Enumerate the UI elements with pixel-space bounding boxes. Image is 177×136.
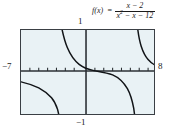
formula-denominator-rest: − x − 12 xyxy=(123,11,153,20)
formula-equals-sign: = xyxy=(107,7,112,15)
x-axis-max-label: 8 xyxy=(158,62,163,71)
formula-fraction: x − 2 x2 − x − 12 xyxy=(115,2,156,21)
graph-plot-area xyxy=(20,29,155,115)
x-axis-min-label: −7 xyxy=(2,62,12,71)
formula-denominator: x2 − x − 12 xyxy=(115,12,156,21)
formula-numerator: x − 2 xyxy=(124,2,145,11)
graph-svg xyxy=(21,30,154,114)
curve-branch-middle xyxy=(62,30,134,114)
function-curve xyxy=(21,30,154,114)
formula-function-name: f(x) xyxy=(92,7,103,15)
function-formula: f(x) = x − 2 x2 − x − 12 xyxy=(92,2,155,21)
y-axis-min-label: −1 xyxy=(76,118,86,127)
figure-screenshot: f(x) = x − 2 x2 − x − 12 xyxy=(0,0,177,136)
curve-branch-left xyxy=(21,82,59,114)
y-axis-max-label: 1 xyxy=(78,17,83,26)
axes-group xyxy=(21,30,154,114)
curve-branch-right xyxy=(138,30,154,64)
